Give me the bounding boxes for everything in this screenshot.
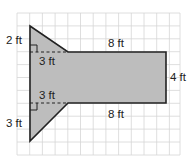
label-rect-bottom: 8 ft — [108, 108, 125, 120]
label-rect-top: 8 ft — [108, 37, 125, 49]
label-bottom-triangle-base: 3 ft — [39, 89, 56, 101]
label-top-triangle-height: 2 ft — [6, 34, 23, 46]
label-rect-right: 4 ft — [170, 71, 187, 83]
composite-shape — [30, 26, 166, 141]
label-bottom-triangle-height: 3 ft — [6, 117, 23, 129]
label-top-triangle-base: 3 ft — [39, 55, 56, 67]
composite-figure-diagram: 2 ft 3 ft 8 ft 4 ft 3 ft 8 ft 3 ft — [0, 0, 196, 165]
